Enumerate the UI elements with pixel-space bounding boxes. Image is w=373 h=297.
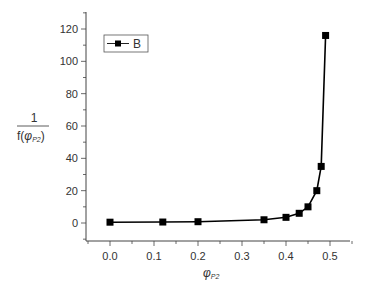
y-axis-label: 1 f(φP2) (17, 111, 49, 143)
x-axis-label-text: φP2 (203, 266, 219, 280)
plot-area (107, 32, 330, 226)
x-tick-label: 0.1 (146, 250, 161, 262)
x-axis-label: φP2 (203, 266, 219, 280)
x-tick-label: 0.3 (234, 250, 249, 262)
data-point-square-icon (313, 187, 320, 194)
data-point-square-icon (305, 203, 312, 210)
y-axis-label-denominator: f(φP2) (17, 129, 45, 143)
y-tick-label: 120 (60, 23, 78, 35)
data-point-square-icon (318, 163, 325, 170)
data-point-square-icon (322, 32, 329, 39)
x-tick-label: 0.2 (190, 250, 205, 262)
series-line-B (110, 36, 326, 223)
y-axis-label-numerator: 1 (31, 111, 38, 125)
axes: 0204060801001200.00.10.20.30.40.5 (60, 12, 352, 262)
y-tick-label: 40 (66, 152, 78, 164)
y-tick-label: 20 (66, 185, 78, 197)
data-point-square-icon (261, 216, 268, 223)
x-tick-label: 0.5 (322, 250, 337, 262)
data-point-square-icon (159, 219, 166, 226)
legend-square-marker-icon (115, 41, 121, 47)
y-tick-label: 60 (66, 120, 78, 132)
chart: 0204060801001200.00.10.20.30.40.5 B 1 f(… (0, 0, 373, 297)
x-tick-label: 0.0 (102, 250, 117, 262)
data-point-square-icon (195, 218, 202, 225)
data-point-square-icon (296, 210, 303, 217)
y-tick-label: 80 (66, 88, 78, 100)
x-tick-label: 0.4 (278, 250, 293, 262)
legend-label: B (133, 37, 141, 51)
y-tick-label: 100 (60, 55, 78, 67)
data-point-square-icon (283, 214, 290, 221)
data-point-square-icon (107, 219, 114, 226)
legend: B (104, 35, 148, 52)
y-tick-label: 0 (72, 217, 78, 229)
